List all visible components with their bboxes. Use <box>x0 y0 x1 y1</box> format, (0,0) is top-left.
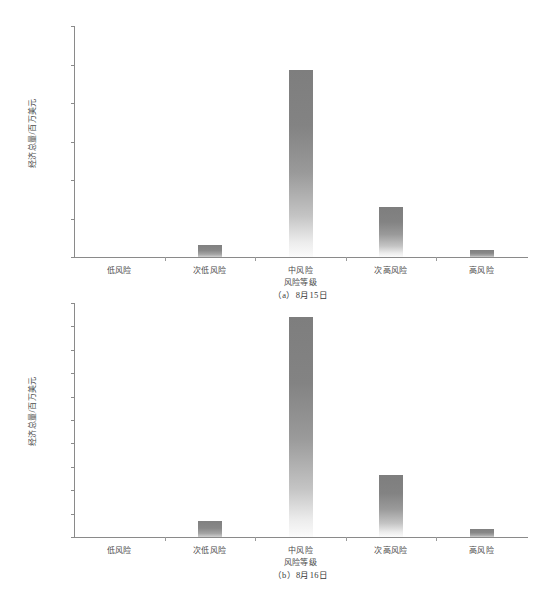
x-tick-label: 高风险 <box>469 544 494 555</box>
x-tick-label: 低风险 <box>107 544 132 555</box>
x-tick-label: 次高风险 <box>374 264 408 275</box>
x-tick-label: 中风险 <box>288 264 313 275</box>
y-tick-mark <box>71 26 74 27</box>
bar <box>198 245 222 257</box>
x-tick-label: 高风险 <box>469 264 494 275</box>
x-tick-mark <box>436 257 437 261</box>
y-tick-mark <box>71 103 74 104</box>
y-tick-mark <box>71 142 74 143</box>
x-tick-mark <box>165 257 166 261</box>
x-tick-mark <box>255 257 256 261</box>
y-axis-line-a <box>74 26 75 258</box>
x-axis-line-b <box>74 537 528 538</box>
x-tick-label: 低风险 <box>107 264 132 275</box>
figure-a: 经济总量/百万美元 0100 000200 000300 000400 0005… <box>0 10 545 302</box>
page-top-text-bleed <box>0 0 545 9</box>
y-tick-mark <box>71 420 74 421</box>
x-tick-mark <box>346 537 347 541</box>
y-tick-mark <box>71 303 74 304</box>
y-tick-mark <box>71 326 74 327</box>
y-tick-mark <box>71 514 74 515</box>
y-axis-title-a: 经济总量/百万美元 <box>26 98 37 168</box>
y-tick-mark <box>71 350 74 351</box>
x-axis-title-b: 风险等级 <box>284 556 318 567</box>
x-tick-mark <box>436 537 437 541</box>
x-tick-label: 次低风险 <box>193 544 227 555</box>
bar <box>470 250 494 257</box>
x-tick-mark <box>346 257 347 261</box>
y-tick-mark <box>71 373 74 374</box>
y-tick-mark <box>71 257 74 258</box>
figure-b: 经济总量/百万美元 050 000100 000150 000200 00025… <box>0 296 545 596</box>
y-tick-mark <box>71 467 74 468</box>
bar <box>470 529 494 537</box>
bar <box>198 521 222 537</box>
bar <box>379 475 403 537</box>
y-axis-title-b: 经济总量/百万美元 <box>26 376 37 446</box>
y-tick-mark <box>71 490 74 491</box>
x-axis-line-a <box>74 257 528 258</box>
y-tick-mark <box>71 537 74 538</box>
y-tick-mark <box>71 219 74 220</box>
figure-caption-b: （b）8月16日 <box>273 568 328 580</box>
x-tick-mark <box>165 537 166 541</box>
bar <box>289 317 313 537</box>
x-axis-title-a: 风险等级 <box>284 276 318 287</box>
x-tick-label: 次低风险 <box>193 264 227 275</box>
y-tick-mark <box>71 65 74 66</box>
x-tick-label: 中风险 <box>288 544 313 555</box>
y-axis-line-b <box>74 303 75 538</box>
x-tick-mark <box>255 537 256 541</box>
bar <box>289 70 313 257</box>
y-tick-mark <box>71 397 74 398</box>
y-tick-mark <box>71 443 74 444</box>
x-tick-label: 次高风险 <box>374 544 408 555</box>
bar <box>379 207 403 257</box>
y-tick-mark <box>71 180 74 181</box>
